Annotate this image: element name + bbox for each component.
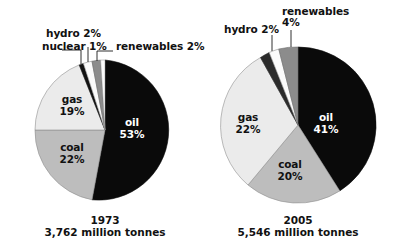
slice-label-2005-oil: oil 41% <box>306 112 346 135</box>
callout-1973-renewables: renewables 2% <box>116 41 204 53</box>
caption-2005-year: 2005 <box>218 214 378 226</box>
slice-label-1973-oil-name: oil <box>112 117 152 129</box>
slice-label-2005-gas-value: 22% <box>228 124 268 136</box>
slice-label-2005-coal-value: 20% <box>268 171 312 183</box>
caption-1973-total: 3,762 million tonnes <box>25 226 185 238</box>
slice-label-1973-gas: gas 19% <box>52 94 92 117</box>
slice-label-2005-coal-name: coal <box>268 159 312 171</box>
slice-label-1973-coal-name: coal <box>50 142 94 154</box>
caption-2005: 2005 5,546 million tonnes <box>218 214 378 238</box>
slice-label-1973-coal: coal 22% <box>50 142 94 165</box>
callout-2005-renewables: renewables 4% <box>282 6 349 28</box>
slice-label-1973-oil-value: 53% <box>112 129 152 141</box>
slice-label-1973-gas-name: gas <box>52 94 92 106</box>
callout-2005-hydro: hydro 2% <box>224 24 279 36</box>
slice-label-1973-oil: oil 53% <box>112 117 152 140</box>
leader-1973-renewables <box>97 51 113 61</box>
energy-mix-pie-figure: nuclear 1% hydro 2% renewables 2% oil 53… <box>0 0 401 246</box>
callout-1973-hydro: hydro 2% <box>46 28 101 40</box>
slice-label-2005-coal: coal 20% <box>268 159 312 182</box>
caption-1973: 1973 3,762 million tonnes <box>25 214 185 238</box>
caption-1973-year: 1973 <box>25 214 185 226</box>
slice-label-2005-gas-name: gas <box>228 112 268 124</box>
callout-2005-renewables-value: 4% <box>282 17 349 28</box>
slice-label-2005-oil-name: oil <box>306 112 346 124</box>
caption-2005-total: 5,546 million tonnes <box>218 226 378 238</box>
slice-label-1973-coal-value: 22% <box>50 154 94 166</box>
slice-label-2005-oil-value: 41% <box>306 124 346 136</box>
slice-label-1973-gas-value: 19% <box>52 106 92 118</box>
slice-label-2005-gas: gas 22% <box>228 112 268 135</box>
callout-1973-nuclear: nuclear 1% <box>42 41 107 53</box>
